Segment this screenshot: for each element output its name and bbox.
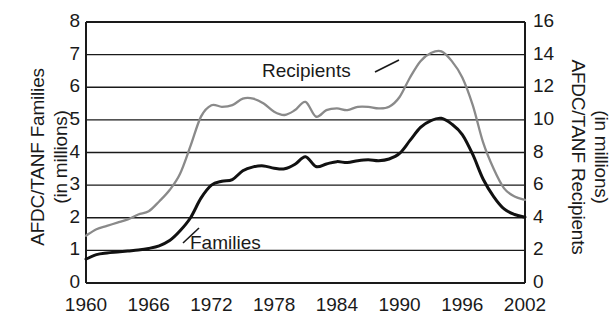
y-tick-right-12: 12 [533,75,561,97]
x-tick-2002: 2002 [495,294,555,316]
x-tick-1996: 1996 [432,294,492,316]
y-tick-left-5: 5 [56,108,80,130]
y-tick-left-3: 3 [56,173,80,195]
y-tick-right-2: 2 [533,238,561,260]
x-tick-1972: 1972 [181,294,241,316]
series-label-families: Families [190,232,261,254]
y-tick-left-8: 8 [56,10,80,32]
y-tick-left-2: 2 [56,206,80,228]
y-tick-left-4: 4 [56,141,80,163]
x-tick-1966: 1966 [119,294,179,316]
y-tick-left-0: 0 [56,271,80,293]
y-tick-right-10: 10 [533,108,561,130]
x-tick-1990: 1990 [370,294,430,316]
chart-figure: AFDC/TANF Families (in millions) AFDC/TA… [0,0,615,336]
series-label-recipients: Recipients [262,60,351,82]
y-tick-right-0: 0 [533,271,561,293]
y-tick-left-6: 6 [56,75,80,97]
x-tick-1960: 1960 [56,294,116,316]
y-tick-left-7: 7 [56,43,80,65]
gridlines [86,55,525,251]
plot-area [0,0,615,336]
y-tick-right-8: 8 [533,141,561,163]
y-tick-right-4: 4 [533,206,561,228]
x-tick-1978: 1978 [244,294,304,316]
y-tick-right-6: 6 [533,173,561,195]
y-tick-left-1: 1 [56,238,80,260]
y-tick-right-14: 14 [533,43,561,65]
y-tick-right-16: 16 [533,10,561,32]
series-paths [86,51,525,259]
series-line-families [86,118,525,259]
x-tick-1984: 1984 [307,294,367,316]
recipients-leader-line [375,60,399,72]
